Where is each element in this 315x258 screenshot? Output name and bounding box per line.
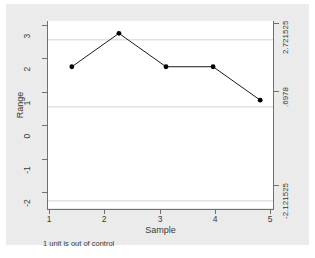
range-series-markers [69, 31, 262, 103]
data-point [117, 31, 122, 36]
data-series-layer [6, 4, 315, 258]
data-point [258, 98, 263, 103]
data-point [211, 64, 216, 69]
data-point [164, 64, 169, 69]
data-point [69, 64, 74, 69]
graph-region: 3 2 1 0 -1 -2 1 2 3 4 5 2.721525 .6978 -… [6, 4, 309, 245]
